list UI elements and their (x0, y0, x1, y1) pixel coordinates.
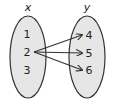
codomain-element: 5 (86, 47, 93, 60)
domain-set-label: x (24, 1, 32, 14)
codomain-set-label: y (83, 1, 91, 14)
codomain-element: 6 (86, 64, 93, 77)
domain-element: 1 (24, 28, 31, 41)
codomain-element: 4 (86, 29, 93, 42)
domain-element: 2 (24, 46, 31, 59)
mapping-diagram: x y 1 2 3 4 5 6 (0, 0, 113, 102)
domain-element: 3 (24, 64, 31, 77)
